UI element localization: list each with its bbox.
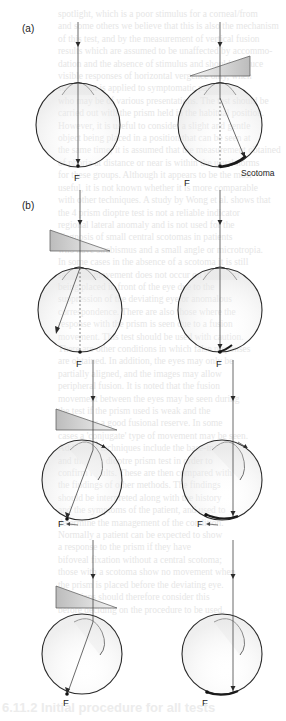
panel-b-row2-right-eye: F — [182, 360, 262, 529]
section-heading: 6.11.2 Initial procedure for all tests — [2, 700, 215, 715]
prism — [56, 409, 117, 430]
panel-a-right-eye: Scotoma F — [178, 22, 275, 188]
fovea-label: F — [76, 358, 82, 369]
prism — [56, 586, 117, 608]
panel-a-label: (a) — [22, 23, 34, 34]
panel-b-row1-right-eye: F — [178, 190, 262, 369]
fovea-label: F — [197, 518, 203, 529]
panel-b-row1-left-eye: F — [38, 190, 122, 369]
fovea-label: F — [58, 518, 64, 529]
scotoma-label: Scotoma — [241, 168, 275, 178]
fovea-label: F — [74, 172, 80, 183]
panel-b-row3-left-eye: F — [42, 540, 122, 708]
panel-b-row3-right-eye: F — [182, 540, 262, 708]
fovea-label: F — [216, 358, 222, 369]
panel-b-row2-left-eye: F — [42, 360, 122, 529]
panel-a-left-eye: F — [36, 22, 120, 183]
figure-prism-cover-test: (a) F Scotoma F (b) F — [0, 0, 286, 721]
fovea-label: F — [184, 177, 190, 188]
panel-b-label: (b) — [22, 200, 34, 211]
